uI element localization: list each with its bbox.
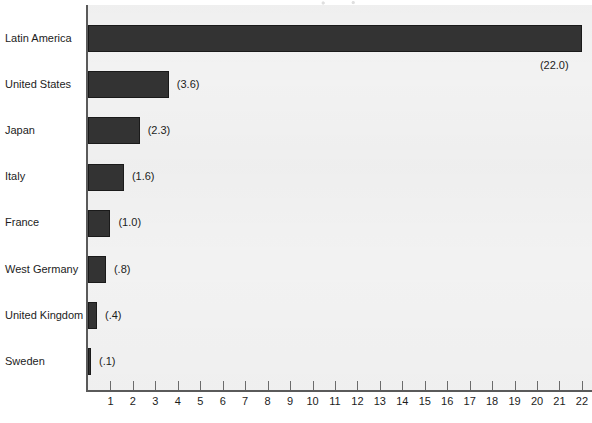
bar-value-label: (.1) [99, 356, 116, 367]
category-label: Latin America [5, 33, 72, 44]
category-label: Italy [5, 171, 25, 182]
bar [88, 302, 97, 329]
x-tick-mark [133, 381, 134, 390]
x-tick-mark [200, 381, 201, 390]
x-tick-label: 4 [175, 396, 181, 407]
x-tick-label: 15 [419, 396, 431, 407]
x-tick-mark [178, 381, 179, 390]
bar-value-label: (1.0) [118, 217, 141, 228]
bar-value-label: (.4) [105, 310, 122, 321]
category-label: West Germany [5, 264, 78, 275]
x-tick-mark [582, 381, 583, 390]
x-tick-mark [290, 381, 291, 390]
x-tick-label: 7 [242, 396, 248, 407]
x-tick-mark [155, 381, 156, 390]
bar-value-label: (1.6) [132, 171, 155, 182]
category-label: France [5, 217, 39, 228]
x-tick-label: 10 [306, 396, 318, 407]
x-tick-mark [357, 381, 358, 390]
x-tick-mark [515, 381, 516, 390]
bar-value-label: (.8) [114, 264, 131, 275]
bar-value-label: (2.3) [148, 125, 171, 136]
bar-value-label: (3.6) [177, 79, 200, 90]
bar [88, 348, 91, 375]
x-tick-label: 6 [220, 396, 226, 407]
x-tick-mark [447, 381, 448, 390]
x-tick-mark [492, 381, 493, 390]
x-tick-mark [335, 381, 336, 390]
x-tick-mark [559, 381, 560, 390]
x-tick-mark [470, 381, 471, 390]
bar-value-label: (22.0) [540, 60, 569, 71]
bar [88, 71, 169, 98]
x-tick-label: 20 [531, 396, 543, 407]
x-tick-mark [110, 381, 111, 390]
x-tick-mark [425, 381, 426, 390]
x-tick-label: 18 [486, 396, 498, 407]
x-tick-label: 14 [396, 396, 408, 407]
x-tick-label: 8 [265, 396, 271, 407]
x-tick-label: 13 [374, 396, 386, 407]
bar-chart: Latin AmericaUnited StatesJapanItalyFran… [0, 0, 592, 423]
bar [88, 164, 124, 191]
bar [88, 25, 582, 52]
x-tick-mark [313, 381, 314, 390]
x-tick-label: 11 [329, 396, 340, 407]
x-tick-mark [537, 381, 538, 390]
x-tick-label: 9 [287, 396, 293, 407]
x-tick-label: 21 [553, 396, 565, 407]
x-tick-mark [380, 381, 381, 390]
bar [88, 256, 106, 283]
x-tick-label: 1 [107, 396, 113, 407]
x-axis-line [86, 390, 592, 392]
category-label: Sweden [5, 356, 45, 367]
x-tick-label: 5 [197, 396, 203, 407]
x-tick-label: 3 [152, 396, 158, 407]
x-tick-label: 17 [464, 396, 476, 407]
category-label: United Kingdom [5, 310, 83, 321]
bar [88, 117, 140, 144]
y-axis-line [86, 5, 88, 391]
bar [88, 210, 110, 237]
category-label: Japan [5, 125, 35, 136]
x-tick-label: 19 [508, 396, 520, 407]
x-tick-mark [223, 381, 224, 390]
category-label: United States [5, 79, 71, 90]
plot-area [88, 5, 592, 390]
x-tick-mark [402, 381, 403, 390]
x-tick-label: 22 [576, 396, 588, 407]
x-tick-mark [268, 381, 269, 390]
x-tick-label: 2 [130, 396, 136, 407]
x-tick-mark [245, 381, 246, 390]
x-tick-label: 12 [351, 396, 363, 407]
x-tick-label: 16 [441, 396, 453, 407]
